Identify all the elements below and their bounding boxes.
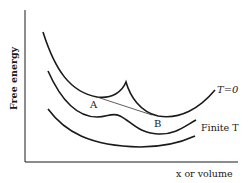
curve-label-t-zero: T=0 <box>217 84 239 95</box>
curve-finite-t <box>48 71 196 134</box>
point-a-label: A <box>89 99 98 110</box>
curve-label-finite-t: Finite T <box>201 122 239 133</box>
free-energy-diagram: A B T=0 Finite T x or volume Free energy <box>0 0 252 183</box>
point-b-label: B <box>154 118 161 129</box>
x-axis-label: x or volume <box>176 168 233 179</box>
curve-high-t <box>48 109 195 147</box>
common-tangent-line <box>97 97 152 115</box>
y-axis-label: Free energy <box>8 46 19 110</box>
